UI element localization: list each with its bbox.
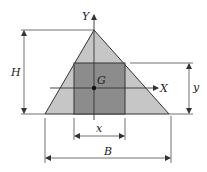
x-axis-label: X — [159, 82, 169, 95]
triangle-diagram: Y X G H y x B — [0, 0, 207, 172]
centroid-label: G — [97, 74, 106, 87]
y-axis-label: Y — [82, 10, 91, 23]
rect-width-label: x — [96, 122, 103, 135]
centroid-point — [92, 86, 96, 90]
base-label: B — [103, 145, 112, 158]
height-label: H — [10, 66, 21, 79]
inner-rectangle — [74, 63, 125, 114]
rect-height-label: y — [192, 81, 200, 94]
